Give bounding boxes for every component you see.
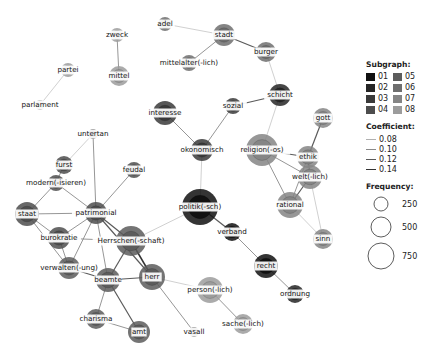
node-label: vasall [184,327,205,336]
node-charisma[interactable]: charisma [78,309,114,329]
node-mittel[interactable]: mittel [105,66,133,86]
node-label: herr [145,272,160,281]
line-sample [366,139,376,140]
node-label: untertan [77,129,108,138]
color-swatch [393,84,402,92]
frequency-legend-title: Frequency: [366,182,424,191]
frequency-legend-items: 250500750 [366,194,424,272]
node-burger[interactable]: burger [252,42,280,62]
node-label: okonomisch [181,145,224,154]
node-feudal[interactable]: feudal [120,162,148,178]
node-verwalten[interactable]: verwalten(-ung) [37,257,102,279]
node-label: religion(-os) [240,145,283,154]
coefficient-legend-items: 0.080.100.120.14 [366,134,424,174]
node-sinn[interactable]: sinn [313,229,333,249]
line-sample [366,159,376,160]
node-okonomisch[interactable]: okonomisch [180,139,224,161]
node-furst[interactable]: furst [52,156,76,174]
color-swatch [366,95,375,103]
node-label: rational [276,200,304,209]
coefficient-legend-item: 0.08 [366,134,424,144]
node-stadt[interactable]: stadt [212,24,236,46]
node-person[interactable]: person(-lich) [182,277,238,303]
coefficient-label: 0.14 [379,165,397,174]
node-amt[interactable]: amt [128,321,150,343]
node-weltlich[interactable]: welt(-lich) [286,165,334,189]
node-adel[interactable]: adel [155,17,174,31]
node-label: gott [316,113,331,122]
coefficient-legend-title: Coefficient: [366,122,424,131]
coefficient-label: 0.10 [379,145,397,154]
coefficient-label: 0.08 [379,135,397,144]
node-label: adel [157,19,172,28]
subgraph-legend-item: 03 [366,94,393,103]
node-herrschen[interactable]: Herrschen(-schaft) [93,226,170,256]
node-label: schicht [267,90,293,99]
node-vasall[interactable]: vasall [180,327,208,337]
node-ordnung[interactable]: ordnung [279,285,311,303]
edge-untertan-patrimonial [93,134,96,213]
circle-icon [366,195,396,213]
node-modern[interactable]: modern(-isieren) [22,175,91,191]
node-sozial[interactable]: sozial [219,98,247,114]
subgraph-legend-item: 02 [366,83,393,92]
node-herr[interactable]: herr [139,264,165,290]
node-zweck[interactable]: zweck [105,28,129,42]
node-layer: zweckmittelparteiparlamentadelstadtmitte… [15,17,334,343]
color-swatch [366,84,375,92]
frequency-legend: Frequency: 250500750 [366,182,424,272]
node-recht[interactable]: recht [254,254,278,278]
node-rational[interactable]: rational [272,192,308,218]
coefficient-label: 0.12 [379,155,397,164]
subgraph-legend-item: 04 [366,105,393,114]
node-schicht[interactable]: schicht [264,84,296,106]
subgraph-label: 04 [378,105,388,114]
node-label: burokratie [40,233,78,242]
node-burokratie[interactable]: burokratie [37,227,81,249]
circle-icon [366,215,396,239]
node-partei[interactable]: partei [54,63,82,77]
frequency-label: 250 [402,200,417,209]
node-label: ordnung [280,289,310,298]
node-label: partei [57,65,78,74]
node-label: patrimonial [75,208,116,217]
subgraph-legend-item: 05 [393,72,420,81]
node-label: modern(-isieren) [26,178,86,187]
node-gott[interactable]: gott [313,108,333,128]
node-label: mittelalter(-lich) [160,58,219,67]
color-swatch [393,95,402,103]
node-label: sache(-lich) [222,319,264,328]
node-label: verband [217,227,247,236]
coefficient-legend-item: 0.10 [366,144,424,154]
node-untertan[interactable]: untertan [75,129,111,139]
color-swatch [393,106,402,114]
subgraph-label: 02 [378,83,388,92]
node-ethik[interactable]: ethik [296,146,320,168]
node-label: burger [254,47,278,56]
node-interesse[interactable]: interesse [145,101,185,125]
subgraph-legend: Subgraph: 0105020603070408 [366,60,424,114]
subgraph-label: 06 [405,83,415,92]
node-label: politik(-sch) [179,202,222,211]
node-label: sozial [223,101,243,110]
subgraph-legend-item: 07 [393,94,420,103]
node-verband[interactable]: verband [216,223,248,241]
color-swatch [366,73,375,81]
node-label: interesse [149,108,183,117]
line-sample [366,169,376,170]
node-mittelalter[interactable]: mittelalter(-lich) [151,55,228,71]
node-staat[interactable]: staat [15,202,39,226]
subgraph-legend-item: 08 [393,105,420,114]
subgraph-label: 05 [405,72,415,81]
node-label: verwalten(-ung) [40,263,98,272]
node-sache[interactable]: sache(-lich) [217,314,269,334]
frequency-label: 750 [402,252,417,261]
node-label: zweck [106,30,129,39]
node-parlament[interactable]: parlament [20,100,60,110]
node-politik[interactable]: politik(-sch) [172,189,228,225]
node-label: ethik [299,152,318,161]
node-label: Herrschen(-schaft) [98,236,165,245]
subgraph-label: 01 [378,72,388,81]
coefficient-legend-item: 0.14 [366,164,424,174]
node-patrimonial[interactable]: patrimonial [72,202,120,224]
